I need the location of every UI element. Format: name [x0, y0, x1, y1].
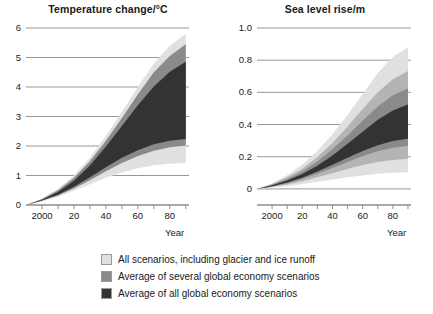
y-tick-label: 0.4 — [218, 120, 252, 130]
y-tick-label: 0 — [218, 184, 252, 194]
plot-area-temperature: 0123456200020406080Year — [26, 28, 189, 205]
x-tick-label: 20 — [57, 211, 91, 221]
legend-label: Average of several global economy scenar… — [118, 271, 320, 282]
x-tick-label: 40 — [89, 211, 123, 221]
y-tick-label: 0.2 — [218, 152, 252, 162]
plot-area-sealevel: 00.20.40.60.81.0200020406080Year — [257, 28, 411, 205]
x-tick-label: 80 — [376, 211, 410, 221]
legend-swatch — [101, 254, 112, 265]
charts-container: Temperature change/°C 012345620002040608… — [0, 0, 433, 250]
chart-panel-sealevel: Sea level rise/m 00.20.40.60.81.02000204… — [217, 0, 433, 250]
y-tick-label: 6 — [0, 23, 21, 33]
x-tick-label: 20 — [285, 211, 319, 221]
chart-title-sealevel: Sea level rise/m — [217, 3, 433, 15]
x-tick-label: 2000 — [25, 211, 59, 221]
chart-svg — [257, 28, 411, 221]
legend-item: Average of all global economy scenarios — [101, 286, 297, 301]
x-tick-label: 80 — [153, 211, 187, 221]
x-tick-label: 2000 — [255, 211, 289, 221]
y-tick-label: 0 — [0, 200, 21, 210]
x-axis-label: Year — [165, 227, 184, 238]
series-band-2 — [26, 62, 186, 205]
y-tick-label: 5 — [0, 53, 21, 63]
y-tick-label: 0.6 — [218, 87, 252, 97]
legend-label: All scenarios, including glacier and ice… — [118, 254, 315, 265]
y-tick-label: 2 — [0, 141, 21, 151]
chart-title-temperature: Temperature change/°C — [0, 3, 216, 15]
legend-swatch — [101, 288, 112, 299]
legend-item: All scenarios, including glacier and ice… — [101, 252, 315, 267]
y-tick-label: 3 — [0, 112, 21, 122]
y-tick-label: 1.0 — [218, 23, 252, 33]
y-tick-label: 0.8 — [218, 55, 252, 65]
x-tick-label: 60 — [121, 211, 155, 221]
chart-panel-temperature: Temperature change/°C 012345620002040608… — [0, 0, 216, 250]
legend-label: Average of all global economy scenarios — [118, 288, 297, 299]
legend-item: Average of several global economy scenar… — [101, 269, 320, 284]
y-tick-label: 1 — [0, 171, 21, 181]
x-axis-label: Year — [387, 227, 406, 238]
legend-swatch — [101, 271, 112, 282]
y-tick-label: 4 — [0, 82, 21, 92]
chart-svg — [26, 28, 189, 221]
chart-legend: All scenarios, including glacier and ice… — [0, 252, 433, 314]
x-tick-label: 40 — [315, 211, 349, 221]
x-tick-label: 60 — [346, 211, 380, 221]
